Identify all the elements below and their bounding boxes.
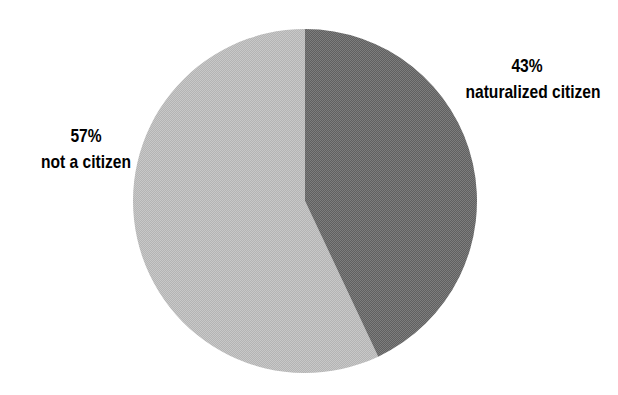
pie-label-not-citizen-percent: 57%	[40, 126, 132, 145]
pie-label-naturalized-citizen: 43% naturalized citizen	[466, 56, 589, 101]
pie-chart: 43% naturalized citizen 57% not a citize…	[0, 0, 618, 395]
pie-label-naturalized-percent: 43%	[466, 56, 589, 75]
pie-label-not-citizen-name: not a citizen	[40, 152, 132, 171]
pie-label-not-a-citizen: 57% not a citizen	[40, 126, 132, 171]
pie-label-naturalized-name: naturalized citizen	[466, 82, 589, 101]
